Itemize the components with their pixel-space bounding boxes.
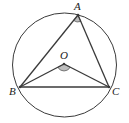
point-A xyxy=(77,14,80,17)
segment-OB xyxy=(20,64,64,87)
segment-AB xyxy=(20,15,78,87)
angle-marks xyxy=(58,15,81,71)
vertex-labels: A O B C xyxy=(9,0,120,97)
geometry-diagram: A O B C xyxy=(0,0,129,123)
point-O xyxy=(63,63,66,66)
point-B xyxy=(19,86,22,89)
label-O: O xyxy=(60,49,68,61)
segment-OC xyxy=(64,64,109,87)
segment-AC xyxy=(78,15,109,87)
label-A: A xyxy=(73,0,81,12)
label-C: C xyxy=(112,85,120,97)
point-C xyxy=(108,86,111,89)
label-B: B xyxy=(9,85,16,97)
